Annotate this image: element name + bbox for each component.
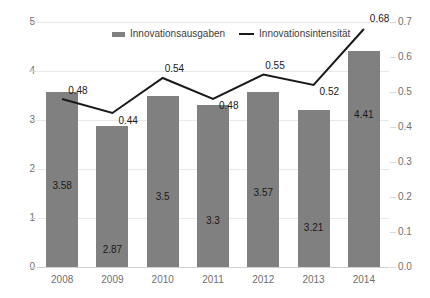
bar-value-label-2014: 4.41 (339, 109, 389, 120)
bar-value-label-2013: 3.21 (288, 222, 338, 233)
right-axis-tick: 0.2 (398, 192, 426, 202)
line-value-label-2012: 0.55 (265, 60, 284, 71)
legend-item-innovationsintensitaet: Innovationsintensität (239, 28, 350, 40)
right-axis-tick-mark (390, 267, 396, 268)
legend-bar-swatch-icon (112, 32, 125, 37)
line-value-label-2010: 0.54 (165, 63, 184, 74)
bar-value-label-2008: 3.58 (37, 180, 87, 191)
x-axis-label-2012: 2012 (238, 274, 288, 285)
right-axis-tick-mark (390, 162, 396, 163)
x-axis-label-2010: 2010 (138, 274, 188, 285)
bar-value-label-2009: 2.87 (87, 244, 137, 255)
right-axis-tick: 0.4 (398, 122, 426, 132)
right-axis-tick-mark (390, 127, 396, 128)
line-path (62, 29, 364, 113)
line-value-label-2008: 0.48 (68, 85, 87, 96)
left-axis-tick-mark (30, 267, 36, 268)
x-axis-label-2008: 2008 (37, 274, 87, 285)
line-value-label-2011: 0.48 (219, 100, 238, 111)
right-axis-tick: 0.5 (398, 87, 426, 97)
chart-legend: Innovationsausgaben Innovationsintensitä… (112, 28, 350, 40)
bar-value-label-2011: 3.3 (188, 215, 238, 226)
right-axis-tick: 0.1 (398, 227, 426, 237)
right-axis-tick-mark (390, 232, 396, 233)
legend-item-innovationsausgaben: Innovationsausgaben (112, 28, 225, 40)
legend-label-innovationsintensitaet: Innovationsintensität (259, 28, 350, 40)
left-axis-tick-mark (30, 169, 36, 170)
right-axis-tick: 0.3 (398, 157, 426, 167)
x-axis-label-2009: 2009 (87, 274, 137, 285)
line-value-label-2014: 0.68 (370, 13, 389, 24)
x-axis-label-2014: 2014 (339, 274, 389, 285)
right-axis-tick-mark (390, 92, 396, 93)
bar-value-label-2010: 3.5 (138, 191, 188, 202)
left-axis-tick-mark (30, 71, 36, 72)
right-axis-tick-mark (390, 57, 396, 58)
right-axis-tick-mark (390, 22, 396, 23)
chart-container: 012345 0.00.10.20.30.40.50.60.7 20082009… (0, 0, 430, 298)
left-axis-tick-mark (30, 22, 36, 23)
line-value-label-2013: 0.52 (320, 86, 339, 97)
x-axis-label-2011: 2011 (188, 274, 238, 285)
plot-area: 0.480.440.540.480.550.520.68 3.582.873.5… (37, 22, 389, 267)
bar-value-label-2012: 3.57 (238, 187, 288, 198)
left-axis-tick-mark (30, 218, 36, 219)
gridline (37, 267, 389, 268)
right-axis-tick: 0.7 (398, 17, 426, 27)
legend-label-innovationsausgaben: Innovationsausgaben (130, 28, 225, 40)
legend-line-swatch-icon (239, 33, 254, 35)
right-axis-tick-mark (390, 197, 396, 198)
line-value-label-2009: 0.44 (118, 115, 137, 126)
left-axis-tick-mark (30, 120, 36, 121)
right-axis-tick: 0.0 (398, 262, 426, 272)
x-axis-label-2013: 2013 (288, 274, 338, 285)
right-axis-tick: 0.6 (398, 52, 426, 62)
